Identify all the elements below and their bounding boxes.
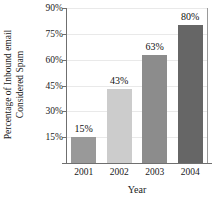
y-axis-tick-label: 75% (31, 29, 63, 39)
y-axis-tick-labels: 15%30%45%60%75%90% (28, 0, 63, 168)
y-axis-title: Percentage of Inbound email Considered S… (0, 0, 30, 168)
y-axis-tick-label: 45% (31, 81, 63, 91)
y-axis-tick-mark (62, 34, 66, 35)
y-axis-tick-label: 60% (31, 55, 63, 65)
bar (107, 89, 132, 163)
plot-right-border (207, 8, 208, 163)
y-axis-tick-label: 30% (31, 106, 63, 116)
y-axis-tick-mark (62, 8, 66, 9)
bar-value-label: 15% (75, 123, 93, 134)
bar-value-label: 80% (181, 11, 199, 22)
y-axis-tick-mark (62, 137, 66, 138)
bar-value-label: 63% (146, 41, 164, 52)
y-axis-tick-label: 15% (31, 132, 63, 142)
x-axis-tick-label: 2002 (110, 167, 129, 177)
x-axis-tick-label: 2003 (145, 167, 164, 177)
x-axis-line (62, 163, 212, 164)
x-axis-title: Year (66, 184, 208, 195)
bar (142, 55, 167, 164)
y-axis-tick-mark (62, 60, 66, 61)
y-axis-title-line1: Percentage of Inbound email (4, 29, 16, 138)
bar-value-label: 43% (110, 75, 128, 86)
plot-area: 15%43%63%80% (66, 8, 208, 163)
bar (178, 25, 203, 163)
gridline (67, 8, 207, 9)
x-axis-tick-label: 2001 (74, 167, 93, 177)
y-axis-tick-label: 90% (31, 3, 63, 13)
bar (71, 137, 96, 163)
y-axis-title-line2: Considered Spam (15, 29, 27, 138)
x-axis-tick-labels: 2001200220032004 (66, 167, 208, 181)
bar-chart: Percentage of Inbound email Considered S… (0, 0, 223, 208)
y-axis-tick-mark (62, 111, 66, 112)
x-axis-tick-label: 2004 (181, 167, 200, 177)
y-axis-tick-mark (62, 86, 66, 87)
